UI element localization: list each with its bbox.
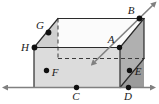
box-front-face — [34, 48, 120, 88]
label-E: E — [134, 65, 142, 77]
geometry-figure-container: A B C D E F G H — [0, 0, 159, 104]
label-G: G — [36, 19, 44, 31]
label-H: H — [20, 41, 30, 53]
point-A — [117, 45, 122, 50]
label-F: F — [51, 66, 59, 78]
geometry-figure-svg: A B C D E F G H — [0, 0, 159, 104]
label-B: B — [128, 4, 135, 16]
point-G — [46, 30, 52, 36]
label-D: D — [123, 90, 132, 102]
point-E — [127, 68, 132, 73]
point-F — [44, 68, 49, 73]
label-A: A — [107, 33, 115, 45]
point-H — [32, 45, 38, 51]
label-C: C — [72, 90, 80, 102]
point-B — [137, 16, 143, 22]
